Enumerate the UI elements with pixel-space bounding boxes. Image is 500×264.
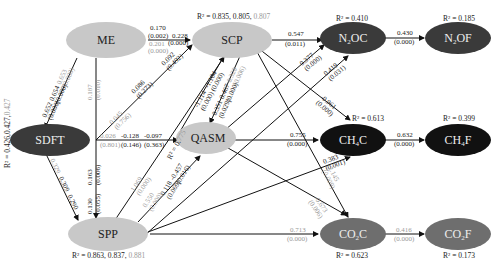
coef-ch4c-ch4f: 0.632 (397, 131, 413, 139)
node-co2f-label: CO2F (445, 227, 472, 242)
r2-co2c: R² = 0.623 (336, 251, 368, 260)
node-spp-label: SPP (98, 227, 118, 241)
coef-spp-co2c: 0.713 (290, 226, 306, 234)
svg-text:0.187: 0.187 (86, 84, 94, 100)
node-n2of-label: N2OF (444, 31, 472, 46)
node-ch4f-label: CH4F (445, 133, 472, 148)
r2-sdft: R² = 0.426,0.427,0.427 (3, 98, 12, 168)
p-co2c-co2f: (0.000) (394, 235, 415, 243)
r2-co2f: R² = 0.173 (443, 251, 475, 260)
labels-spp-n2oc: 0.419 (0.031) (322, 58, 348, 83)
node-ch4c-label: CH4C (339, 133, 367, 148)
r2-n2oc: R² = 0.410 (336, 14, 368, 23)
labels-me-spp: 0.187 (0.010) (86, 79, 102, 100)
labels-sdft-scp-c: 0.045 (0.756) (108, 106, 134, 132)
p-scp-n2oc: (0.011) (285, 40, 306, 48)
labels-sdft-spp-b: 0.130 (0.055) (86, 193, 102, 214)
svg-text:0.130: 0.130 (86, 198, 94, 214)
node-n2oc-label: N2OC (339, 31, 368, 46)
p-sdft-qasm-a: (0.801) (100, 141, 121, 149)
node-scp-label: SCP (221, 33, 243, 47)
labels-sdft-spp-a: 0.163 (0.006) (86, 164, 102, 185)
svg-text:(0.010): (0.010) (94, 79, 102, 100)
labels-scp-ch4c: -0.961 (0.000) (314, 93, 340, 118)
p-ch4c-ch4f: (0.000) (394, 140, 415, 148)
p-me-scp-a: (0.002) (148, 32, 169, 40)
r2-ch4c: R² = 0.613 (352, 114, 384, 123)
node-sdft-label: SDFT (35, 133, 65, 147)
labels-me-sdft: 0.652 (0.000) 0.654 (0.000) 0.653 (0.000… (41, 63, 77, 121)
p-qasm-ch4c: (0.000) (287, 140, 308, 148)
r2-spp: R² = 0.863, 0.837, 0.881 (72, 251, 146, 260)
coef-co2c-co2f: 0.416 (396, 226, 412, 234)
svg-text:0.290: 0.290 (66, 193, 80, 211)
coef-qasm-ch4c: 0.755 (290, 131, 306, 139)
labels-scp-co2c: 2.145 (0.009) (320, 165, 343, 191)
svg-text:(0.055): (0.055) (94, 193, 102, 214)
p-n2oc-n2of: (0.000) (394, 38, 415, 46)
coef-me-scp-a: 0.170 (150, 24, 166, 32)
coef-sdft-qasm-b: -0.128 (121, 132, 140, 140)
p-me-scp-b: (0.000) (168, 39, 189, 47)
r2-n2of: R² = 0.185 (443, 14, 475, 23)
svg-text:0.329: 0.329 (48, 157, 62, 175)
r2-ch4f: R² = 0.399 (443, 114, 475, 123)
labels-qasm-n2oc: 0.377 (0.000) (298, 48, 324, 73)
p-me-scp-c: (0.000) (148, 47, 169, 55)
p-sdft-qasm-b: (0.146) (121, 141, 142, 149)
labels-qasm-co2c: -0.673 (0.006) (307, 195, 331, 221)
p-sdft-qasm-c: (0.363) (144, 141, 165, 149)
node-qasm-label: QASM (191, 131, 226, 145)
coef-sdft-qasm-a: 0.026 (100, 132, 116, 140)
sem-path-diagram: ME SCP SDFT QASM SPP N2OC N2OF CH4C CH4F… (0, 0, 500, 264)
p-spp-co2c: (0.000) (287, 235, 308, 243)
svg-text:0.163: 0.163 (86, 169, 94, 185)
node-co2c-label: CO2C (339, 227, 367, 242)
svg-text:0.309: 0.309 (57, 175, 71, 193)
node-me-label: ME (97, 33, 115, 47)
coef-scp-n2oc: 0.547 (288, 30, 304, 38)
coef-n2oc-n2of: 0.430 (397, 29, 413, 37)
coef-sdft-qasm-c: -0.097 (144, 132, 163, 140)
labels-sdft-spp-diag: 0.329 0.309 0.290 (48, 157, 80, 211)
labels-spp-qasm: 0.118 (0.069) -0.457 (0.016) (159, 160, 192, 201)
svg-text:(0.006): (0.006) (94, 164, 102, 185)
r2-scp: R² = 0.835, 0.805, 0.807 (197, 12, 271, 21)
labels-sdft-scp-a: 0.086 (0.273) (130, 75, 156, 101)
